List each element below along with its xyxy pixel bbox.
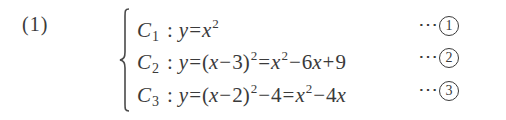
equation-c3: C3:y=(x−2)2−4=x2−4x xyxy=(137,74,346,104)
lhs-variable: y xyxy=(179,50,188,74)
equals-sign: = xyxy=(189,18,201,42)
equals-sign: = xyxy=(283,83,295,107)
equation-marker-1: ⋯1 xyxy=(418,9,459,39)
lhs-variable: y xyxy=(179,18,188,42)
constant: 3 xyxy=(232,50,243,74)
curve-name: C xyxy=(137,18,151,42)
exponent: 2 xyxy=(251,48,258,63)
minus-sign: − xyxy=(219,83,231,107)
circled-number: 2 xyxy=(439,48,459,68)
coefficient: 4 xyxy=(326,83,337,107)
x-variable: x xyxy=(202,18,211,42)
colon: : xyxy=(167,50,173,74)
x-variable: x xyxy=(209,50,218,74)
curve-index: 3 xyxy=(152,94,159,109)
curve-name: C xyxy=(137,50,151,74)
lhs-variable: y xyxy=(179,83,188,107)
minus-sign: − xyxy=(258,83,270,107)
coefficient: 6 xyxy=(302,50,313,74)
problem-number: (1) xyxy=(22,13,48,36)
rparen: ) xyxy=(243,50,250,74)
rparen: ) xyxy=(243,83,250,107)
ellipsis: ⋯ xyxy=(418,13,438,35)
x-variable: x xyxy=(295,83,304,107)
x-variable: x xyxy=(312,50,321,74)
minus-sign: − xyxy=(219,50,231,74)
x-variable: x xyxy=(271,50,280,74)
equals-sign: = xyxy=(189,50,201,74)
colon: : xyxy=(167,18,173,42)
constant: 4 xyxy=(271,83,282,107)
plus-sign: + xyxy=(323,50,335,74)
minus-sign: − xyxy=(289,50,301,74)
exponent: 2 xyxy=(251,81,258,96)
x-variable: x xyxy=(209,83,218,107)
ellipsis: ⋯ xyxy=(418,78,438,100)
equation-c2: C2:y=(x−3)2=x2−6x+9 xyxy=(137,41,346,71)
exponent: 2 xyxy=(212,16,219,31)
equation-marker-3: ⋯3 xyxy=(418,74,459,104)
x-variable: x xyxy=(337,83,346,107)
colon: : xyxy=(167,83,173,107)
lparen: ( xyxy=(202,83,209,107)
constant: 9 xyxy=(335,50,346,74)
ellipsis: ⋯ xyxy=(418,45,438,67)
left-brace-icon xyxy=(118,8,132,112)
equals-sign: = xyxy=(189,83,201,107)
minus-sign: − xyxy=(313,83,325,107)
equals-sign: = xyxy=(258,50,270,74)
curve-name: C xyxy=(137,83,151,107)
circled-number: 1 xyxy=(439,16,459,36)
circled-number: 3 xyxy=(439,81,459,101)
exponent: 2 xyxy=(281,48,288,63)
equation-marker-2: ⋯2 xyxy=(418,41,459,71)
equation-c1: C1:y=x2 xyxy=(137,9,219,39)
lparen: ( xyxy=(202,50,209,74)
exponent: 2 xyxy=(306,81,313,96)
constant: 2 xyxy=(232,83,243,107)
